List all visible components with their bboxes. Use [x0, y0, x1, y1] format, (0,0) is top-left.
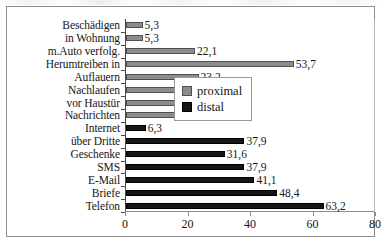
scan-artifact-strip	[0, 0, 382, 5]
bar-distal: 37,9	[126, 138, 244, 144]
bar-value-label: 63,2	[326, 200, 346, 212]
category-label: Telefon	[86, 200, 120, 212]
x-axis-tick	[125, 212, 126, 216]
category-label: in Wohnung	[65, 32, 120, 44]
bar-row: Telefon63,2	[125, 199, 375, 212]
chart-legend: proximal distal	[174, 77, 252, 121]
category-label: SMS	[97, 161, 120, 173]
bar-row: über Dritte37,9	[125, 135, 375, 148]
bar-row: E-Mail41,1	[125, 173, 375, 186]
bar-value-label: 6,3	[148, 122, 162, 134]
x-axis-tick-label: 80	[369, 218, 381, 231]
x-axis-tick-label: 0	[122, 218, 128, 231]
category-label: Beschädigen	[62, 19, 120, 31]
category-label: vor Haustür	[66, 97, 120, 109]
bar-value-label: 48,4	[279, 187, 299, 199]
x-axis-tick	[188, 212, 189, 216]
bar-distal: 41,1	[126, 177, 254, 183]
bar-value-label: 5,3	[145, 19, 159, 31]
bar-row: Herumtreiben in53,7	[125, 58, 375, 71]
x-axis-tick-label: 40	[244, 218, 256, 231]
legend-swatch-distal-icon	[182, 102, 192, 112]
bar-distal: 6,3	[126, 125, 146, 131]
bar-proximal: 22,1	[126, 48, 195, 54]
x-axis-tick-label: 20	[182, 218, 194, 231]
category-label: Internet	[85, 122, 120, 134]
figure-frame: Beschädigen5,3in Wohnung5,3m.Auto verfol…	[6, 6, 375, 237]
bar-proximal: 53,7	[126, 61, 294, 67]
bar-value-label: 5,3	[145, 32, 159, 44]
category-label: E-Mail	[88, 174, 120, 186]
bar-distal: 31,6	[126, 151, 225, 157]
x-axis-tick	[250, 212, 251, 216]
bar-proximal: 5,3	[126, 22, 143, 28]
bar-distal: 63,2	[126, 203, 324, 209]
x-axis-tick	[375, 212, 376, 216]
category-label: über Dritte	[71, 135, 120, 147]
bar-row: Geschenke31,6	[125, 148, 375, 161]
bar-row: Briefe48,4	[125, 186, 375, 199]
x-axis-tick-label: 60	[307, 218, 319, 231]
x-axis-tick	[313, 212, 314, 216]
bar-value-label: 31,6	[227, 148, 247, 160]
bar-row: Internet6,3	[125, 122, 375, 135]
bar-value-label: 41,1	[256, 174, 276, 186]
legend-item-proximal: proximal	[182, 83, 242, 99]
bar-row: SMS37,9	[125, 161, 375, 174]
category-label: Nachlaufen	[68, 84, 120, 96]
bar-distal: 48,4	[126, 190, 277, 196]
bar-value-label: 37,9	[246, 135, 266, 147]
bar-value-label: 37,9	[246, 161, 266, 173]
legend-swatch-proximal-icon	[182, 86, 192, 96]
bar-row: m.Auto verfolg.22,1	[125, 45, 375, 58]
category-label: Herumtreiben in	[46, 58, 120, 70]
bar-value-label: 22,1	[197, 45, 217, 57]
bar-proximal: 5,3	[126, 35, 143, 41]
category-label: Nachrichten	[65, 109, 120, 121]
category-label: Briefe	[92, 187, 120, 199]
bar-value-label: 53,7	[296, 58, 316, 70]
bar-row: Beschädigen5,3	[125, 19, 375, 32]
legend-label-distal: distal	[197, 99, 224, 115]
category-label: m.Auto verfolg.	[48, 45, 120, 57]
category-label: Auflauern	[74, 71, 120, 83]
legend-item-distal: distal	[182, 99, 242, 115]
bar-distal: 37,9	[126, 164, 244, 170]
category-label: Geschenke	[70, 148, 120, 160]
legend-label-proximal: proximal	[197, 83, 242, 99]
bar-row: in Wohnung5,3	[125, 32, 375, 45]
